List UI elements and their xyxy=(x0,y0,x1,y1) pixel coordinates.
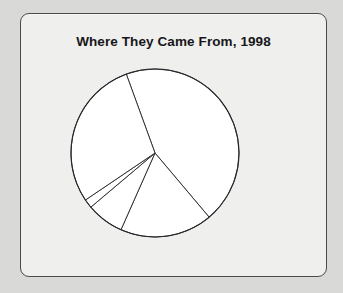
pie-chart xyxy=(65,63,245,243)
page-title: Where They Came From, 1998 xyxy=(21,34,326,49)
pie-chart-svg xyxy=(65,63,245,243)
pie-slice-group xyxy=(71,69,239,237)
figure-panel: Where They Came From, 1998 xyxy=(20,13,327,277)
